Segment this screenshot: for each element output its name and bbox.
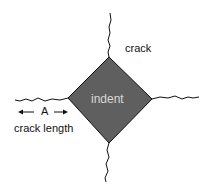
crack-length-label: crack length: [14, 122, 73, 134]
arrow-right-icon: [54, 110, 68, 115]
arrow-letter-label: A: [41, 105, 48, 117]
indent-label: indent: [91, 92, 124, 106]
crack-left: [15, 98, 68, 101]
crack-bottom: [105, 143, 109, 182]
arrow-left-icon: [18, 110, 34, 115]
crack-right: [152, 96, 199, 99]
indentation-diagram: crack indent A crack length: [0, 0, 208, 194]
crack-top: [108, 13, 111, 57]
crack-label: crack: [125, 42, 151, 54]
